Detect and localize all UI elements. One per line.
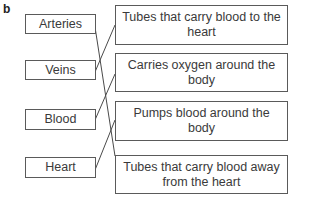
definition-to-heart[interactable]: Tubes that carry blood to the heart [115, 5, 288, 45]
definition-pumps[interactable]: Pumps blood around the body [115, 101, 288, 141]
definition-away-from-heart[interactable]: Tubes that carry blood away from the hea… [115, 155, 288, 194]
term-blood[interactable]: Blood [25, 109, 96, 130]
term-heart[interactable]: Heart [25, 157, 96, 178]
line-blood-to-oxygen [95, 74, 115, 120]
line-arteries-to-away [95, 27, 115, 156]
definition-oxygen[interactable]: Carries oxygen around the body [115, 53, 288, 92]
line-heart-to-pumps [95, 120, 115, 170]
term-arteries[interactable]: Arteries [25, 14, 96, 34]
term-veins[interactable]: Veins [25, 60, 96, 80]
